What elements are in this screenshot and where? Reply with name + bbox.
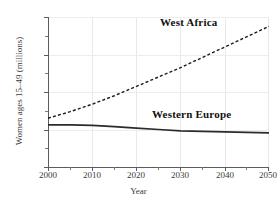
series-paths bbox=[0, 0, 277, 202]
series-label-western-europe: Western Europe bbox=[152, 108, 231, 120]
series-line-western-europe bbox=[48, 125, 269, 133]
series-label-west-africa: West Africa bbox=[160, 16, 218, 28]
line-chart: 160 120 80 40 0 2000 2010 2020 2030 2040… bbox=[0, 0, 277, 202]
series-line-west-africa bbox=[48, 26, 269, 118]
